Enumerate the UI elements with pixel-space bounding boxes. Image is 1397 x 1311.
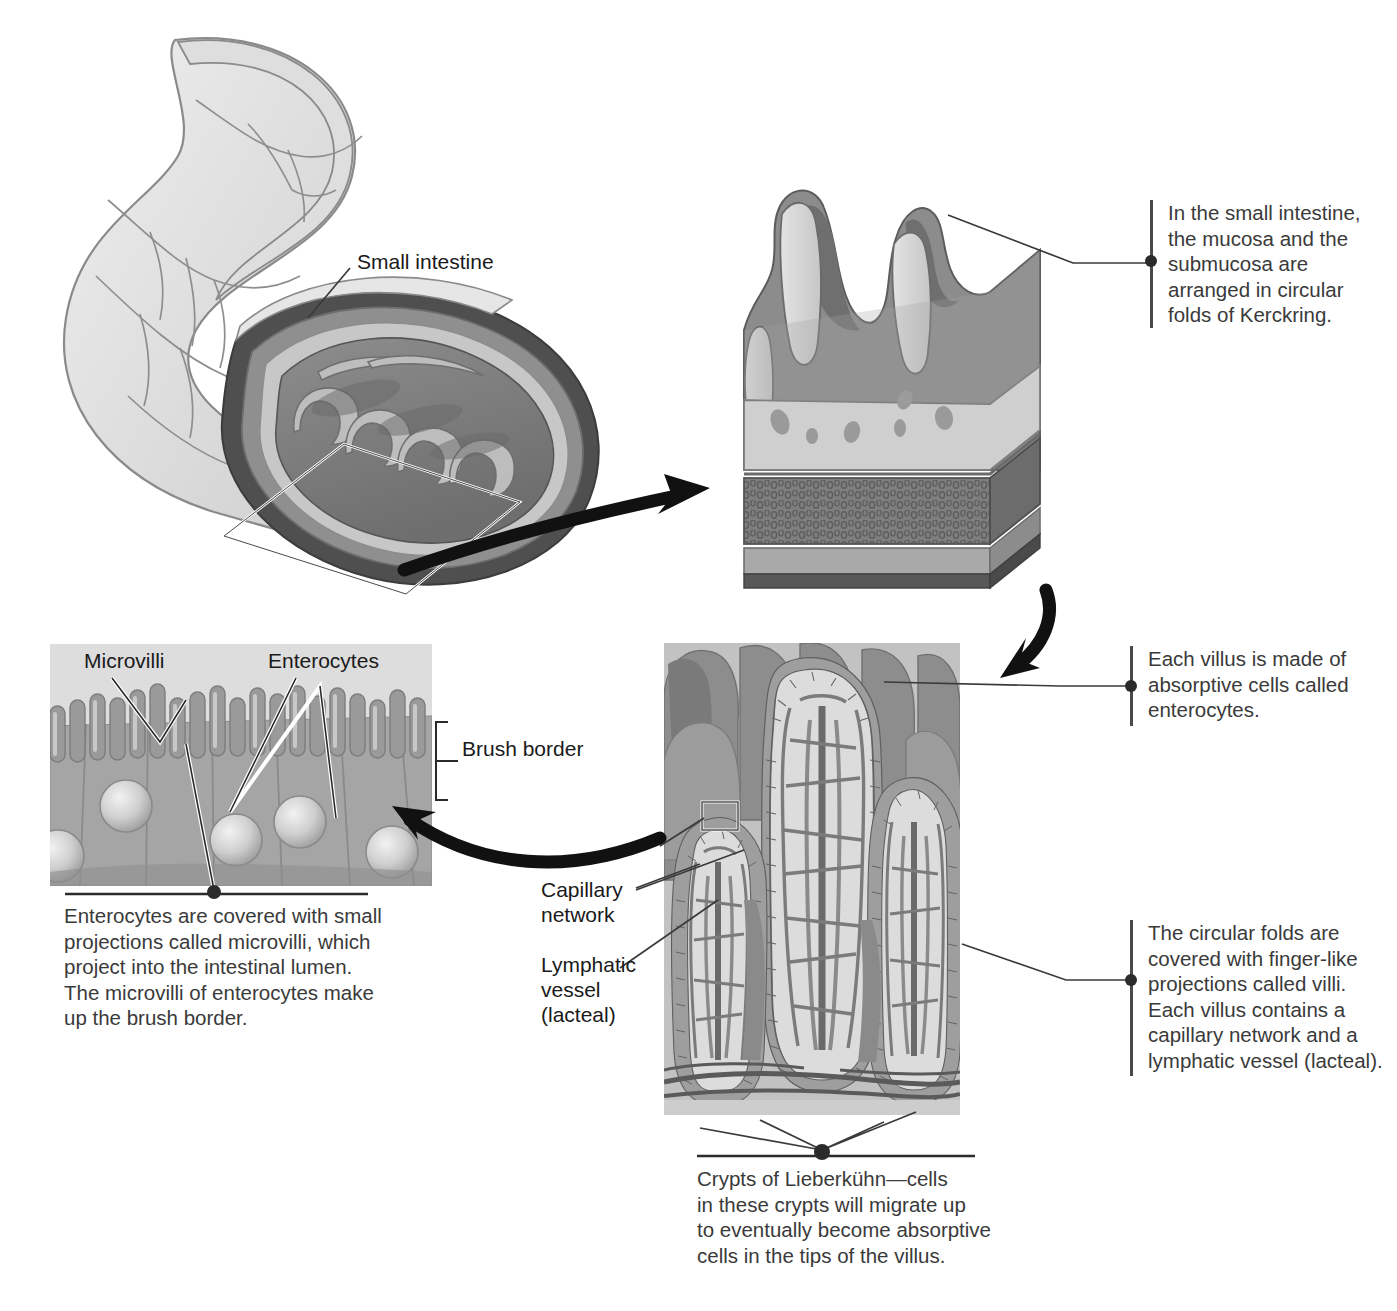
circular-folds-block	[744, 190, 1040, 588]
villus-panel-art	[664, 643, 963, 1115]
circular-muscle-layer	[744, 478, 990, 544]
arrow-microvilli-icon	[392, 806, 660, 862]
bracket-icon	[436, 722, 458, 800]
label-small-intestine: Small intestine	[357, 249, 494, 274]
label-enterocytes: Enterocytes	[268, 648, 379, 673]
leader-kerckring	[948, 215, 1150, 263]
callout-villi-text: The circular folds are covered with fing…	[1148, 920, 1383, 1073]
callout-bar	[1130, 920, 1133, 1076]
callout-villi: The circular folds are covered with fing…	[1130, 920, 1383, 1076]
caption-crypts: Crypts of Lieberkühn—cells in these cryp…	[697, 1166, 1097, 1268]
callout-dot	[1145, 255, 1157, 267]
microvilli-panel-art	[32, 644, 432, 886]
leader-crypts	[700, 1112, 916, 1150]
callout-dot	[1125, 974, 1137, 986]
anatomy-figure: Small intestine Microvilli Enterocytes B…	[0, 0, 1397, 1311]
longitudinal-muscle-layer	[744, 548, 990, 574]
label-lymphatic-vessel: Lymphatic vessel (lacteal)	[541, 952, 636, 1027]
callout-enterocytes: Each villus is made of absorptive cells …	[1130, 646, 1349, 726]
caption-microvilli: Enterocytes are covered with small proje…	[64, 903, 444, 1031]
callout-kerckring: In the small intestine, the mucosa and t…	[1150, 200, 1361, 328]
callout-kerckring-text: In the small intestine, the mucosa and t…	[1168, 200, 1361, 328]
callout-enterocytes-text: Each villus is made of absorptive cells …	[1148, 646, 1349, 723]
label-brush-border: Brush border	[462, 736, 583, 761]
label-microvilli: Microvilli	[84, 648, 165, 673]
serosa-layer	[744, 574, 990, 588]
label-capillary-network: Capillary network	[541, 877, 623, 927]
leader-villi-callout	[962, 944, 1130, 980]
small-intestine-illustration	[64, 38, 599, 594]
callout-dot	[1125, 680, 1137, 692]
arrow-villus-icon	[1000, 590, 1049, 678]
